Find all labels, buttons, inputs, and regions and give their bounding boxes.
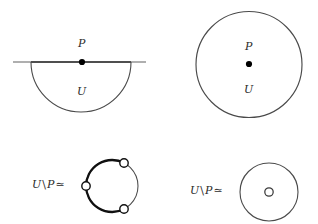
- homotopy-circle-bold-arc: [86, 160, 124, 212]
- label-u-half-disk: U: [77, 86, 86, 97]
- point-p-dot: [246, 61, 252, 67]
- label-p-disk: P: [245, 41, 252, 52]
- point-p-dot: [79, 59, 85, 65]
- panel-half-disk-punctured: [82, 159, 138, 213]
- label-homotopy-equiv-token: ≃: [212, 184, 223, 197]
- label-u-minus-p-equiv-right: U\P≃: [190, 185, 224, 196]
- label-u-minus-p-equiv-left: U\P≃: [32, 179, 66, 190]
- open-point-top-right-icon: [120, 159, 128, 167]
- panel-disk: [196, 12, 302, 118]
- label-homotopy-equiv-token: ≃: [54, 178, 65, 191]
- open-point-bottom-right-icon: [120, 205, 128, 213]
- open-point-left-icon: [82, 182, 90, 190]
- figure-canvas: P U P U U\P≃ U\P≃: [0, 0, 318, 224]
- panel-disk-punctured: [240, 163, 298, 221]
- puncture-open-point-icon: [265, 188, 273, 196]
- label-u-disk: U: [244, 84, 253, 95]
- label-u-token: U: [190, 184, 199, 197]
- label-p-half-disk: P: [78, 38, 85, 49]
- label-u-token: U: [32, 178, 41, 191]
